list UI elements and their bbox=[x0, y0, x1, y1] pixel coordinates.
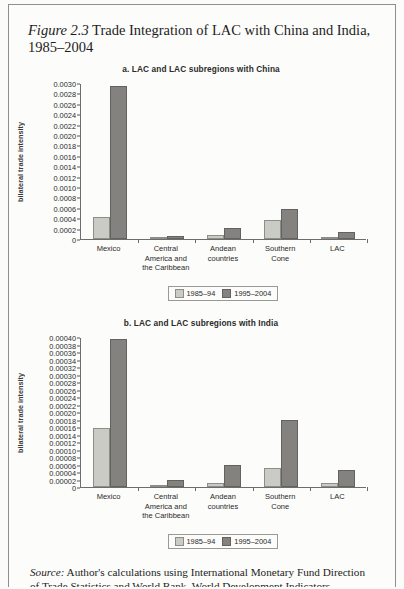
legend-swatch bbox=[222, 537, 231, 546]
x-axis-label: SouthernCone bbox=[252, 244, 309, 263]
legend-item: 1985–94 bbox=[175, 289, 216, 298]
bar-1985-94 bbox=[264, 220, 281, 239]
x-tick-mark bbox=[195, 239, 196, 243]
plot-canvas-b bbox=[80, 338, 366, 488]
y-tick-label: 0.0004 bbox=[53, 215, 76, 224]
x-axis-label-line: Central bbox=[137, 492, 194, 502]
x-tick-mark bbox=[138, 239, 139, 243]
x-tick-mark bbox=[310, 487, 311, 491]
chart-panel-b: b. LAC and LAC subregions with Indiabila… bbox=[14, 318, 388, 556]
y-tick-label: 0.0022 bbox=[53, 121, 76, 130]
x-tick-mark bbox=[138, 487, 139, 491]
y-tick-label: 0.0026 bbox=[53, 100, 76, 109]
bar-1995-2004 bbox=[167, 480, 184, 487]
plot-area-b: 0.000400.000380.000360.000340.000320.000… bbox=[32, 338, 366, 488]
plot-area-a: 0.00300.00280.00260.00240.00220.00200.00… bbox=[32, 84, 366, 240]
x-axis-label: Mexico bbox=[80, 492, 137, 502]
bar-1995-2004 bbox=[110, 86, 127, 239]
chart-title-b: b. LAC and LAC subregions with India bbox=[14, 318, 388, 328]
chart-panel-a: a. LAC and LAC subregions with Chinabila… bbox=[14, 64, 388, 304]
bar-group bbox=[138, 84, 195, 239]
y-tick-label: 0.0024 bbox=[53, 111, 76, 120]
bar-1995-2004 bbox=[281, 209, 298, 239]
y-axis-label-b: bilateral trade intensity bbox=[16, 373, 25, 453]
x-tick-mark bbox=[195, 487, 196, 491]
legend-label: 1985–94 bbox=[187, 537, 216, 546]
x-tick-mark bbox=[367, 487, 368, 491]
bar-1995-2004 bbox=[224, 465, 241, 488]
x-tick-mark bbox=[253, 239, 254, 243]
bar-1985-94 bbox=[150, 237, 167, 239]
bar-1995-2004 bbox=[167, 236, 184, 239]
y-tick-label: 0.0018 bbox=[53, 142, 76, 151]
legend-label: 1995–2004 bbox=[234, 289, 271, 298]
y-tick-label: 0 bbox=[72, 236, 76, 245]
bar-1985-94 bbox=[207, 483, 224, 487]
x-axis-label: Andeancountries bbox=[194, 492, 251, 511]
y-tick-label: 0.0028 bbox=[53, 90, 76, 99]
bar-1985-94 bbox=[93, 428, 110, 487]
bar-group bbox=[195, 84, 252, 239]
x-axis-label-line: LAC bbox=[309, 244, 366, 254]
legend-item: 1995–2004 bbox=[222, 537, 271, 546]
y-axis-ticks-a: 0.00300.00280.00260.00240.00220.00200.00… bbox=[32, 84, 80, 240]
legend-swatch bbox=[175, 537, 184, 546]
y-tick-label: 0.0012 bbox=[53, 173, 76, 182]
x-axis-label-line: Central bbox=[137, 244, 194, 254]
bar-group bbox=[310, 338, 367, 487]
y-tick-label: 0.0008 bbox=[53, 194, 76, 203]
x-axis-label-line: America and bbox=[137, 502, 194, 512]
legend-swatch bbox=[222, 289, 231, 298]
legend-swatch bbox=[175, 289, 184, 298]
y-axis-ticks-b: 0.000400.000380.000360.000340.000320.000… bbox=[32, 338, 80, 488]
source-line-2: of Trade Statistics and World Bank, Worl… bbox=[30, 580, 382, 587]
x-axis-label-line: LAC bbox=[309, 492, 366, 502]
y-tick-label: 0.0002 bbox=[53, 225, 76, 234]
source-note: Source: Author's calculations using Inte… bbox=[30, 566, 382, 587]
x-axis-label-line: Mexico bbox=[80, 492, 137, 502]
x-axis-label: LAC bbox=[309, 492, 366, 502]
x-axis-label: Andeancountries bbox=[194, 244, 251, 263]
legend-label: 1995–2004 bbox=[234, 537, 271, 546]
bar-group bbox=[253, 84, 310, 239]
legend-b: 1985–941995–2004 bbox=[168, 534, 279, 549]
x-axis-label-line: Andean bbox=[194, 244, 251, 254]
x-axis-label-line: America and bbox=[137, 254, 194, 264]
y-tick-label: 0.0010 bbox=[53, 184, 76, 193]
bar-1995-2004 bbox=[338, 470, 355, 487]
bar-1995-2004 bbox=[281, 420, 298, 488]
source-label: Source: bbox=[30, 566, 64, 578]
bar-1985-94 bbox=[150, 485, 167, 487]
x-axis-label: CentralAmerica andthe Caribbean bbox=[137, 492, 194, 521]
source-line-1: Author's calculations using Internationa… bbox=[67, 566, 365, 578]
y-axis-label-a: bilateral trade intensity bbox=[16, 122, 25, 202]
x-axis-label-line: Southern bbox=[252, 492, 309, 502]
bar-1985-94 bbox=[321, 483, 338, 488]
legend-label: 1985–94 bbox=[187, 289, 216, 298]
bar-1985-94 bbox=[264, 468, 281, 488]
x-axis-label-line: Cone bbox=[252, 502, 309, 512]
bar-1995-2004 bbox=[224, 228, 241, 239]
bar-1995-2004 bbox=[338, 232, 355, 239]
bar-group bbox=[310, 84, 367, 239]
y-tick-label: 0.0030 bbox=[53, 80, 76, 89]
x-axis-label: Mexico bbox=[80, 244, 137, 254]
legend-a: 1985–941995–2004 bbox=[168, 286, 279, 301]
x-tick-mark bbox=[253, 487, 254, 491]
chart-title-a: a. LAC and LAC subregions with China bbox=[14, 64, 388, 74]
bar-group bbox=[81, 338, 138, 487]
bar-group bbox=[138, 338, 195, 487]
bar-1985-94 bbox=[93, 217, 110, 239]
bar-1985-94 bbox=[207, 235, 224, 239]
x-axis-label: CentralAmerica andthe Caribbean bbox=[137, 244, 194, 273]
x-axis-label: SouthernCone bbox=[252, 492, 309, 511]
x-axis-label-line: the Caribbean bbox=[137, 263, 194, 273]
y-tick-label: 0.0016 bbox=[53, 152, 76, 161]
x-tick-mark bbox=[367, 239, 368, 243]
x-axis-label-line: Andean bbox=[194, 492, 251, 502]
bar-1995-2004 bbox=[110, 339, 127, 487]
bar-1985-94 bbox=[321, 237, 338, 239]
y-tick-label: 0 bbox=[72, 484, 76, 493]
bar-group bbox=[253, 338, 310, 487]
plot-canvas-a bbox=[80, 84, 366, 240]
